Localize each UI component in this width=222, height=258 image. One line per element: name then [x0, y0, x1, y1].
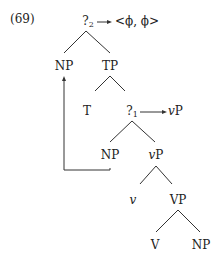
node-np-obj: NP: [192, 238, 211, 252]
node-vp: VP: [170, 193, 187, 207]
node-np-inner: NP: [101, 148, 120, 162]
node-q1: ?1: [126, 104, 138, 122]
q1-type-italic: v: [168, 104, 175, 118]
node-np-spec: NP: [55, 59, 74, 73]
q2-type: <ϕ, ϕ>: [115, 14, 159, 28]
node-v: V: [151, 238, 160, 252]
node-q2: ?2: [82, 14, 94, 32]
node-tp: TP: [102, 59, 118, 73]
tree-edges: [0, 0, 222, 258]
q1-type: vP: [168, 104, 183, 118]
example-number: (69): [10, 12, 35, 26]
node-vp-small: vP: [149, 148, 164, 162]
node-t: T: [83, 104, 91, 118]
node-vp-small-rest: P: [155, 148, 163, 162]
node-v-small: v: [130, 193, 137, 207]
q1-type-rest: P: [175, 104, 183, 118]
node-vp-small-italic: v: [149, 148, 156, 162]
node-q2-subscript: 2: [89, 20, 94, 29]
node-q1-subscript: 1: [133, 110, 138, 119]
